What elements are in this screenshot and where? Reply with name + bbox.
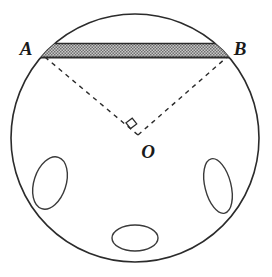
label-point-a: A (19, 38, 33, 59)
shaded-band (0, 44, 272, 58)
geometry-figure-container: A B O (0, 0, 272, 277)
shaded-band-group (0, 44, 272, 58)
label-point-o: O (141, 141, 155, 162)
circle-chord-diagram: A B O (0, 0, 272, 277)
label-point-b: B (233, 38, 247, 59)
